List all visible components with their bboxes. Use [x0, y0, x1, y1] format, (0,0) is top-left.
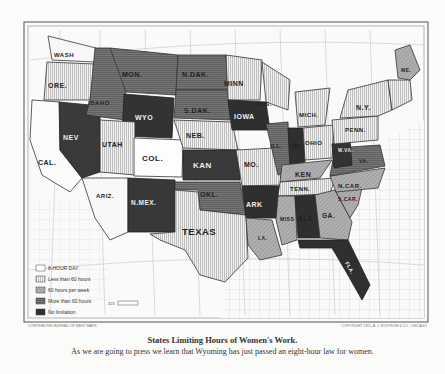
label-la: LA.	[258, 235, 268, 241]
label-okl: OKL.	[200, 191, 219, 198]
state-sdak	[174, 90, 230, 120]
label-ariz: ARIZ.	[96, 193, 114, 199]
label-cal: CAL.	[38, 159, 56, 166]
credit-right: COPYRIGHT 1915, A. J. NYSTROM & CO., CHI…	[341, 324, 427, 328]
label-ind: IND	[290, 143, 302, 149]
label-neb: NEB.	[186, 132, 205, 139]
map-title: States Limiting Hours of Women's Work.	[0, 335, 445, 345]
label-kan: KAN	[193, 161, 212, 170]
label-ncar: N.CAR.	[338, 183, 362, 189]
label-ndak: N.DAK.	[182, 71, 209, 78]
label-wis: WIS.	[257, 101, 272, 107]
svg-text:No limitation: No limitation	[48, 309, 76, 315]
label-minn: MINN	[224, 80, 244, 87]
label-ohio: OHIO	[305, 140, 322, 146]
credit-left: CONTRIBUTED BUREAU OF WEST MAPS	[28, 324, 97, 328]
label-ga: GA.	[322, 212, 335, 219]
label-ken: KEN	[295, 171, 311, 178]
label-ny: N.Y.	[356, 104, 371, 111]
state-neb	[174, 120, 238, 150]
label-idaho: IDAHO	[88, 100, 110, 106]
svg-text:Less than 60 hours: Less than 60 hours	[48, 276, 91, 282]
label-miss: MISS	[280, 216, 294, 222]
label-nev: NEV	[63, 134, 79, 141]
label-wash: WASH	[54, 52, 74, 58]
label-utah: UTAH	[102, 141, 123, 148]
label-ala: ALA	[298, 215, 313, 222]
label-nmex: N.MEX.	[131, 199, 156, 206]
map-subtitle: As we are going to press we learn that W…	[0, 347, 445, 356]
label-penn: PENN.	[345, 127, 366, 133]
label-scar: S.CAR.	[338, 196, 358, 202]
label-col: COL.	[142, 154, 163, 163]
label-mo: MO.	[244, 161, 259, 168]
state-ore	[44, 62, 95, 100]
svg-text:60 hours per week: 60 hours per week	[48, 287, 90, 293]
label-va: VA.	[359, 158, 369, 164]
label-wyo: WYO	[135, 114, 153, 121]
label-ore: ORE.	[48, 82, 67, 89]
state-minn	[226, 55, 262, 100]
label-ill: ILL.	[270, 143, 283, 149]
label-mon: MON.	[122, 71, 142, 78]
state-mich	[295, 88, 330, 127]
svg-text:323: 323	[108, 301, 115, 306]
label-sdak: S.DAK.	[184, 107, 211, 114]
label-texas: TEXAS	[182, 226, 216, 237]
label-tenn: TENN.	[290, 186, 311, 192]
states-map: WASH ORE. CAL. NEV IDAHO MON. WYO UTAH C…	[0, 0, 445, 374]
label-ark: ARK	[246, 201, 263, 208]
svg-text:8-HOUR DAY: 8-HOUR DAY	[48, 265, 79, 271]
label-wva: W.VA.	[338, 148, 353, 153]
svg-text:More than 60 hours: More than 60 hours	[48, 298, 92, 304]
label-mich: MICH.	[299, 112, 319, 118]
label-iowa: IOWA	[234, 113, 255, 120]
label-me: ME.	[401, 67, 412, 73]
